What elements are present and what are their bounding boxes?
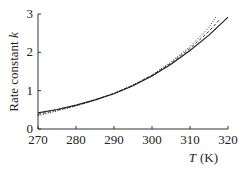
curve-solid xyxy=(38,17,228,113)
x-tick-label: 290 xyxy=(104,132,124,147)
x-tick-label: 280 xyxy=(66,132,86,147)
x-tick-label: 310 xyxy=(180,132,200,147)
labels: 2702802903003103200123T(K)Rate constant … xyxy=(6,6,238,165)
y-tick-label: 1 xyxy=(27,83,34,98)
chart: 2702802903003103200123T(K)Rate constant … xyxy=(0,0,244,170)
y-tick-label: 2 xyxy=(27,44,34,59)
curves xyxy=(38,16,228,116)
curve-dotted xyxy=(38,16,217,116)
x-tick-label: 300 xyxy=(142,132,162,147)
axes xyxy=(38,14,228,129)
x-axis-label: T(K) xyxy=(189,150,218,165)
y-tick-label: 0 xyxy=(27,121,34,136)
y-tick-label: 3 xyxy=(27,6,34,21)
curve-dashed xyxy=(38,19,220,115)
x-tick-label: 320 xyxy=(218,132,238,147)
y-axis-label: Rate constant k xyxy=(6,32,21,112)
